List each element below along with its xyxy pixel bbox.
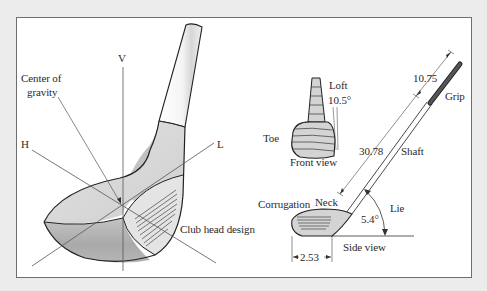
loft-value: 10.5° [328,94,351,106]
head-length-value: 2.53 [300,251,319,263]
corrugation-label: Corrugation [258,198,310,210]
center-of-gravity-label-line2: gravity [27,86,57,98]
axis-label-v: V [118,52,126,64]
club-head-design-label: Club head design [180,223,255,235]
grip-length-value: 10.75 [413,72,437,84]
toe-label: Toe [263,132,279,144]
neck-label: Neck [315,196,338,208]
loft-label: Loft [329,79,348,91]
golf-club-diagram: V Center of gravity H L Club head design… [0,0,487,291]
side-view-title: Side view [343,241,386,253]
grip-label: Grip [445,90,465,102]
axis-label-l: L [217,138,224,150]
lie-angle-value: 5.4° [361,213,379,225]
shaft-label: Shaft [401,145,424,157]
lie-label: Lie [390,202,404,214]
shaft-length-value: 30.78 [359,145,383,157]
center-of-gravity-label-line1: Center of [21,72,61,84]
axis-label-h: H [21,138,29,150]
front-view-title: Front view [290,156,337,168]
